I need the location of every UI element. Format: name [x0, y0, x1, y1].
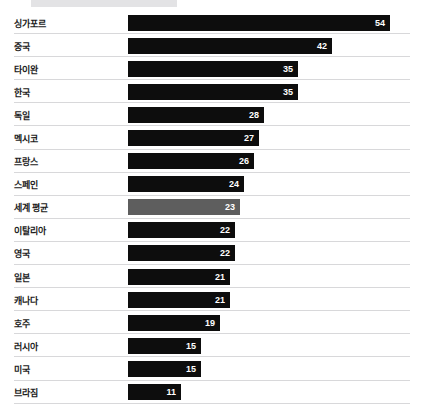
- bar-value-label: 42: [317, 41, 327, 50]
- header-band: [31, 0, 177, 7]
- bar-value-label: 23: [225, 203, 235, 212]
- bar-area: 15: [128, 357, 410, 380]
- bar: 22: [128, 222, 235, 238]
- bar-value-label: 22: [220, 226, 230, 235]
- bar: 35: [128, 84, 298, 100]
- bar-value-label: 24: [229, 180, 239, 189]
- bar-area: 28: [128, 103, 410, 126]
- chart-row: 독일28: [0, 103, 424, 126]
- chart-row: 일본21: [0, 265, 424, 288]
- chart-row: 스페인24: [0, 173, 424, 196]
- row-label: 프랑스: [14, 155, 38, 168]
- bar-area: 23: [128, 196, 410, 219]
- bar: 21: [128, 269, 230, 285]
- bar: 28: [128, 107, 264, 123]
- gridline: [14, 403, 410, 404]
- bar-area: 21: [128, 265, 410, 288]
- row-label: 호주: [14, 316, 30, 329]
- bar-chart: 싱가포르54중국42타이완35한국35독일28멕시코27프랑스26스페인24세계…: [0, 0, 424, 406]
- bar-area: 35: [128, 80, 410, 103]
- bar-value-label: 27: [244, 134, 254, 143]
- bar-value-label: 15: [186, 341, 196, 350]
- row-label: 러시아: [14, 339, 38, 352]
- bar: 22: [128, 245, 235, 261]
- chart-row: 호주19: [0, 311, 424, 334]
- bar-area: 15: [128, 334, 410, 357]
- row-label: 멕시코: [14, 132, 38, 145]
- bar-value-label: 54: [375, 18, 385, 27]
- bar-highlighted: 23: [128, 199, 240, 215]
- row-label: 세계 평균: [14, 201, 48, 214]
- bar-value-label: 35: [283, 64, 293, 73]
- bar-value-label: 21: [215, 295, 225, 304]
- chart-rows: 싱가포르54중국42타이완35한국35독일28멕시코27프랑스26스페인24세계…: [0, 11, 424, 404]
- bar-value-label: 21: [215, 272, 225, 281]
- chart-row: 브라짐11: [0, 381, 424, 404]
- row-label: 이탈리아: [14, 224, 46, 237]
- chart-row: 세계 평균23: [0, 196, 424, 219]
- bar: 54: [128, 15, 390, 31]
- bar-value-label: 22: [220, 249, 230, 258]
- chart-row: 영국22: [0, 242, 424, 265]
- chart-row: 캐나다21: [0, 288, 424, 311]
- bar: 42: [128, 38, 332, 54]
- bar-area: 35: [128, 57, 410, 80]
- bar: 21: [128, 292, 230, 308]
- bar: 27: [128, 130, 259, 146]
- bar: 11: [128, 384, 181, 400]
- bar-value-label: 28: [249, 110, 259, 119]
- row-label: 영국: [14, 247, 30, 260]
- row-label: 브라짐: [14, 386, 38, 399]
- row-label: 캐나다: [14, 293, 38, 306]
- chart-row: 프랑스26: [0, 150, 424, 173]
- bar-value-label: 26: [239, 157, 249, 166]
- bar-area: 22: [128, 242, 410, 265]
- row-label: 스페인: [14, 178, 38, 191]
- row-label: 일본: [14, 270, 30, 283]
- bar: 24: [128, 176, 244, 192]
- chart-row: 중국42: [0, 34, 424, 57]
- row-label: 한국: [14, 85, 30, 98]
- chart-row: 타이완35: [0, 57, 424, 80]
- bar-area: 54: [128, 11, 410, 34]
- bar: 15: [128, 361, 201, 377]
- bar-area: 22: [128, 219, 410, 242]
- row-label: 싱가포르: [14, 16, 46, 29]
- bar-area: 27: [128, 126, 410, 149]
- bar-value-label: 19: [205, 318, 215, 327]
- bar-value-label: 11: [166, 388, 176, 397]
- chart-row: 멕시코27: [0, 126, 424, 149]
- bar-area: 24: [128, 173, 410, 196]
- bar-value-label: 35: [283, 87, 293, 96]
- chart-row: 한국35: [0, 80, 424, 103]
- bar-area: 11: [128, 381, 410, 404]
- bar: 35: [128, 61, 298, 77]
- row-label: 타이완: [14, 62, 38, 75]
- row-label: 독일: [14, 108, 30, 121]
- bar: 15: [128, 338, 201, 354]
- chart-row: 러시아15: [0, 334, 424, 357]
- bar-area: 26: [128, 150, 410, 173]
- bar: 19: [128, 315, 220, 331]
- bar-area: 42: [128, 34, 410, 57]
- bar-area: 19: [128, 311, 410, 334]
- bar: 26: [128, 153, 254, 169]
- bar-value-label: 15: [186, 364, 196, 373]
- row-label: 중국: [14, 39, 30, 52]
- bar-area: 21: [128, 288, 410, 311]
- chart-row: 싱가포르54: [0, 11, 424, 34]
- chart-row: 미국15: [0, 357, 424, 380]
- row-label: 미국: [14, 362, 30, 375]
- chart-row: 이탈리아22: [0, 219, 424, 242]
